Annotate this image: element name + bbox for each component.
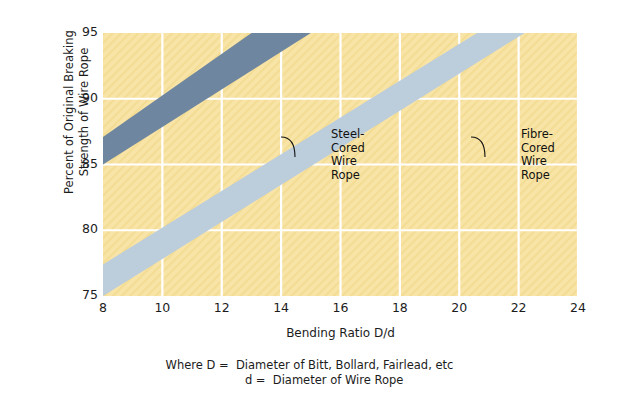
x-tick-label-24: 24 <box>558 300 598 315</box>
x-tick-label-18: 18 <box>380 300 420 315</box>
x-axis-title: Bending Ratio D/d <box>103 326 578 340</box>
y-tick-label-90: 90 <box>14 90 98 105</box>
footnote-line-1: Where D = Diameter of Bitt, Bollard, Fai… <box>0 358 619 373</box>
y-tick-label-95: 95 <box>14 24 98 39</box>
footnote-line-2: d = Diameter of Wire Rope <box>0 373 619 388</box>
x-tick-label-22: 22 <box>499 300 539 315</box>
wire-rope-strength-chart: Percent of Original Breaking Strength of… <box>0 0 619 400</box>
x-tick-label-12: 12 <box>202 300 242 315</box>
plot-area: Steel- Cored Wire Rope Fibre- Cored Wire… <box>103 33 578 296</box>
x-tick-label-10: 10 <box>142 300 182 315</box>
steel-cored-wire-rope-label: Steel- Cored Wire Rope <box>331 128 365 182</box>
x-tick-label-20: 20 <box>439 300 479 315</box>
y-axis-tick-labels: 7580859095 <box>0 0 98 400</box>
y-tick-label-85: 85 <box>14 156 98 171</box>
x-axis-tick-labels: 81012141618202224 <box>0 300 619 322</box>
footnote: Where D = Diameter of Bitt, Bollard, Fai… <box>0 358 619 388</box>
x-tick-label-14: 14 <box>261 300 301 315</box>
x-tick-label-16: 16 <box>321 300 361 315</box>
y-tick-label-80: 80 <box>14 221 98 236</box>
x-tick-label-8: 8 <box>83 300 123 315</box>
fibre-cored-wire-rope-label: Fibre- Cored Wire Rope <box>521 128 555 182</box>
